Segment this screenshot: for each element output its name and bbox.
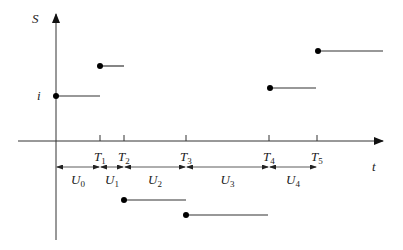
interval-label-U3: U3 <box>221 172 235 189</box>
i-level-label: i <box>37 88 41 103</box>
closed-endpoint-dot <box>315 48 321 54</box>
closed-endpoint-dot <box>267 85 273 91</box>
step-segments <box>53 48 383 218</box>
interval-label-U1: U1 <box>105 172 119 189</box>
tick-label-T1: T1 <box>94 149 106 166</box>
diagram-svg: T1T2T3T4T5 U0U1U2U3U4 S t i <box>0 0 403 250</box>
time-ticks: T1T2T3T4T5 <box>94 135 323 166</box>
closed-endpoint-dot <box>53 93 59 99</box>
interval-arrows: U0U1U2U3U4 <box>57 167 316 189</box>
tick-label-T4: T4 <box>263 149 275 166</box>
closed-endpoint-dot <box>97 63 103 69</box>
axes <box>18 14 383 240</box>
interval-label-U4: U4 <box>286 172 300 189</box>
closed-endpoint-dot <box>121 197 127 203</box>
tick-label-T2: T2 <box>118 149 130 166</box>
y-axis-label: S <box>32 11 39 26</box>
labels: S t i <box>32 11 376 174</box>
interval-label-U2: U2 <box>148 172 162 189</box>
step-function-diagram: T1T2T3T4T5 U0U1U2U3U4 S t i <box>0 0 403 250</box>
x-axis-label: t <box>372 159 376 174</box>
interval-label-U0: U0 <box>71 172 85 189</box>
tick-label-T3: T3 <box>180 149 192 166</box>
tick-label-T5: T5 <box>311 149 323 166</box>
closed-endpoint-dot <box>183 212 189 218</box>
